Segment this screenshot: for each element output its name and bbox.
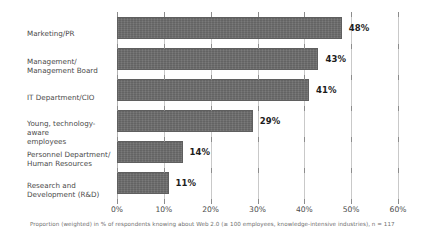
tick-mark <box>164 168 165 173</box>
tick-mark <box>164 106 165 111</box>
tick-mark <box>351 75 352 80</box>
tick-mark <box>351 199 352 204</box>
bar-row: 11% <box>117 172 398 194</box>
category-label: Management/Management Board <box>27 57 113 75</box>
bar-chart: Marketing/PR Management/Management Board… <box>0 0 427 237</box>
tick-mark <box>304 75 305 80</box>
tick-mark <box>164 44 165 49</box>
x-tick-label: 40% <box>296 205 313 214</box>
tick-mark <box>164 12 165 17</box>
tick-mark <box>164 75 165 80</box>
x-tick-label: 30% <box>249 205 266 214</box>
bar-value-label: 14% <box>190 147 211 157</box>
tick-mark <box>258 106 259 111</box>
tick-mark <box>258 75 259 80</box>
bar <box>117 17 342 39</box>
tick-mark <box>211 75 212 80</box>
tick-mark <box>117 75 118 80</box>
tick-mark <box>164 137 165 142</box>
category-label: Research andDevelopment (R&D) <box>27 181 113 199</box>
tick-mark <box>351 137 352 142</box>
tick-mark <box>398 199 399 204</box>
tick-mark <box>117 168 118 173</box>
chart-footnote: Proportion (weighted) in % of respondent… <box>30 220 395 228</box>
bar-row: 43% <box>117 48 398 70</box>
x-tick-label: 50% <box>343 205 360 214</box>
category-label: IT Department/CIO <box>27 93 113 102</box>
tick-mark <box>258 137 259 142</box>
tick-mark <box>211 106 212 111</box>
tick-mark <box>211 12 212 17</box>
tick-mark <box>117 12 118 17</box>
tick-mark <box>304 137 305 142</box>
tick-mark <box>304 44 305 49</box>
bar-row: 14% <box>117 141 398 163</box>
tick-mark <box>117 44 118 49</box>
tick-mark <box>211 168 212 173</box>
tick-mark <box>351 44 352 49</box>
tick-mark <box>351 106 352 111</box>
bar <box>117 172 169 194</box>
bar-value-label: 41% <box>316 85 337 95</box>
x-tick-label: 0% <box>111 205 123 214</box>
tick-mark <box>398 168 399 173</box>
category-label: Marketing/PR <box>27 29 113 38</box>
tick-mark <box>258 199 259 204</box>
tick-mark <box>304 168 305 173</box>
tick-mark <box>258 168 259 173</box>
tick-mark <box>398 44 399 49</box>
x-tick-label: 20% <box>202 205 219 214</box>
tick-mark <box>304 12 305 17</box>
bar <box>117 79 309 101</box>
bar-row: 29% <box>117 110 398 132</box>
tick-mark <box>398 106 399 111</box>
tick-mark <box>211 137 212 142</box>
tick-mark <box>304 106 305 111</box>
category-label: Young, technology-awareemployees <box>27 119 113 147</box>
bar-row: 48% <box>117 17 398 39</box>
tick-mark <box>304 199 305 204</box>
tick-mark <box>211 44 212 49</box>
bar-value-label: 29% <box>260 116 281 126</box>
tick-mark <box>164 199 165 204</box>
bar <box>117 110 253 132</box>
tick-mark <box>398 137 399 142</box>
tick-mark <box>258 12 259 17</box>
x-tick-label: 60% <box>390 205 407 214</box>
bar-value-label: 48% <box>349 23 370 33</box>
bar-row: 41% <box>117 79 398 101</box>
tick-mark <box>117 137 118 142</box>
tick-mark <box>398 12 399 17</box>
tick-mark <box>398 75 399 80</box>
bar-value-label: 11% <box>176 178 197 188</box>
tick-mark <box>258 44 259 49</box>
category-label: Personnel Department/Human Resources <box>27 150 113 168</box>
tick-mark <box>211 199 212 204</box>
x-tick-label: 10% <box>155 205 172 214</box>
tick-mark <box>117 106 118 111</box>
tick-mark <box>117 199 118 204</box>
tick-mark <box>351 12 352 17</box>
bar-value-label: 43% <box>325 54 346 64</box>
tick-mark <box>351 168 352 173</box>
bar <box>117 141 183 163</box>
bar <box>117 48 318 70</box>
